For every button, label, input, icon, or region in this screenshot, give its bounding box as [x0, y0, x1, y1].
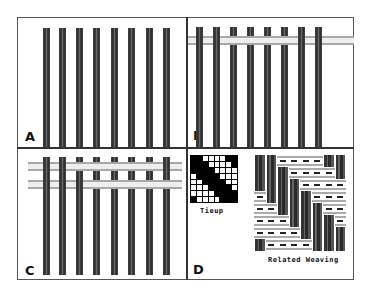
tieup-cell [191, 185, 196, 190]
weave-weft-cell [277, 215, 289, 227]
tieup-cell [226, 156, 231, 161]
weave-weft-cell [254, 227, 266, 239]
weave-weft-cell [312, 155, 324, 167]
panel-c-label: C [25, 264, 35, 277]
warp-thread [76, 28, 83, 147]
panel-c [18, 149, 186, 280]
warp-thread [230, 27, 237, 147]
tieup-cell [203, 162, 208, 167]
warp-thread [43, 157, 50, 275]
weave-warp-cell [266, 167, 278, 179]
weave-warp-cell [277, 191, 289, 203]
weave-warp-cell [254, 239, 266, 251]
weave-weft-cell [254, 215, 266, 227]
tieup-cell [215, 185, 220, 190]
tieup-cell [226, 191, 231, 196]
tieup-cell [220, 156, 225, 161]
tieup-cell [191, 162, 196, 167]
weave-warp-cell [289, 179, 301, 191]
weave-weft-cell [289, 155, 301, 167]
warp-thread [196, 27, 203, 147]
panel-a [18, 18, 186, 147]
weave-warp-cell [300, 227, 312, 239]
tieup-cell [197, 191, 202, 196]
tieup-cell [197, 174, 202, 179]
warp-thread [146, 28, 153, 147]
warp-thread [93, 28, 100, 147]
tieup-cell [232, 174, 237, 179]
weave-weft-cell [266, 227, 278, 239]
weave-weft-cell [266, 215, 278, 227]
weaving-caption: Related Weaving [268, 256, 339, 264]
weave-warp-cell [312, 227, 324, 239]
tieup-cell [215, 191, 220, 196]
weave-weft-cell [254, 203, 266, 215]
weave-weft-cell [277, 155, 289, 167]
weave-warp-cell [289, 215, 301, 227]
weave-warp-cell [277, 179, 289, 191]
weave-weft-cell [312, 167, 324, 179]
weave-warp-cell [266, 191, 278, 203]
weave-weft-cell [335, 179, 347, 191]
weft-thread [28, 180, 182, 189]
related-weaving [254, 155, 346, 251]
tieup-cell [226, 168, 231, 173]
tieup-cell [232, 180, 237, 185]
panel-a-label: A [25, 130, 35, 143]
weave-warp-cell [335, 167, 347, 179]
panel-d-label: D [193, 263, 204, 276]
tieup-cell [226, 162, 231, 167]
panel-b [188, 18, 354, 147]
weave-warp-cell [312, 203, 324, 215]
weft-thread [28, 162, 182, 171]
weave-warp-cell [266, 155, 278, 167]
tieup-cell [197, 168, 202, 173]
weave-weft-cell [312, 179, 324, 191]
tieup-cell [209, 197, 214, 202]
weave-weft-cell [289, 239, 301, 251]
weave-warp-cell [277, 167, 289, 179]
warp-thread-segment [43, 161, 50, 172]
weave-weft-cell [277, 227, 289, 239]
weave-weft-cell [312, 191, 324, 203]
weave-weft-cell [266, 239, 278, 251]
warp-thread [111, 157, 118, 275]
tieup-cell [232, 162, 237, 167]
tieup-cell [203, 185, 208, 190]
tieup-cell [209, 185, 214, 190]
tieup-cell [215, 162, 220, 167]
tieup-cell [203, 191, 208, 196]
tieup-cell [203, 168, 208, 173]
warp-thread [43, 28, 50, 147]
weave-weft-cell [254, 191, 266, 203]
tieup-cell [197, 162, 202, 167]
tieup-cell [226, 197, 231, 202]
warp-thread [146, 157, 153, 275]
weave-warp-cell [300, 191, 312, 203]
tieup-cell [197, 185, 202, 190]
warp-thread [76, 157, 83, 275]
weave-warp-cell [323, 227, 335, 239]
warp-thread-segment [76, 179, 83, 190]
weave-weft-cell [289, 167, 301, 179]
tieup-cell [191, 191, 196, 196]
warp-thread [163, 157, 170, 275]
warp-thread [128, 28, 135, 147]
tieup-cell [220, 185, 225, 190]
weave-warp-cell [254, 155, 266, 167]
weave-warp-cell [335, 239, 347, 251]
weave-weft-cell [300, 155, 312, 167]
tieup-cell [197, 197, 202, 202]
tieup-cell [203, 174, 208, 179]
tieup-cell [191, 174, 196, 179]
tieup-cell [232, 168, 237, 173]
warp-thread-segment [163, 161, 170, 172]
tieup-cell [220, 180, 225, 185]
weave-warp-cell [289, 191, 301, 203]
weave-warp-cell [254, 167, 266, 179]
tieup-cell [197, 180, 202, 185]
tieup-cell [220, 191, 225, 196]
tieup-caption: Tieup [200, 207, 224, 215]
weave-warp-cell [300, 215, 312, 227]
tieup-cell [232, 191, 237, 196]
